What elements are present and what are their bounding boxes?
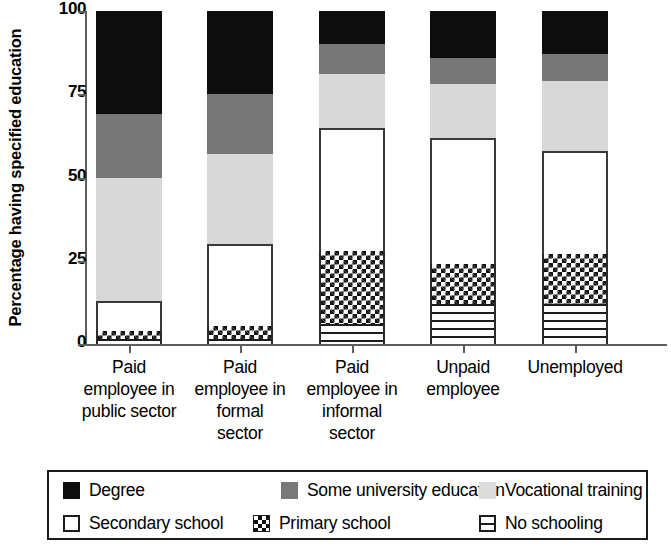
bar-segment-degree[interactable] bbox=[319, 11, 385, 44]
legend-swatch-icon bbox=[63, 482, 80, 499]
bar-segment-someuni[interactable] bbox=[430, 58, 496, 85]
legend-item-vocational-training[interactable]: Vocational training bbox=[479, 473, 642, 507]
x-category-label-1: Paidemployee inpublic sector bbox=[65, 356, 193, 422]
x-tick-mark bbox=[129, 346, 131, 353]
bar-segment-noschool[interactable] bbox=[430, 304, 496, 344]
x-tick-mark bbox=[240, 346, 242, 353]
x-category-label-line: employee in bbox=[288, 378, 416, 400]
bar-segment-vocational[interactable] bbox=[319, 74, 385, 127]
bar-segment-degree[interactable] bbox=[542, 11, 608, 54]
x-category-label-line: sector bbox=[176, 422, 304, 444]
legend-label: Degree bbox=[89, 480, 145, 501]
x-category-label-line: informal bbox=[288, 400, 416, 422]
x-axis-category-labels: Paidemployee inpublic sectorPaidemployee… bbox=[0, 356, 671, 461]
x-category-label-line: formal bbox=[176, 400, 304, 422]
x-category-label-line: Paid bbox=[176, 356, 304, 378]
legend-label: Vocational training bbox=[505, 480, 642, 501]
legend-swatch-icon bbox=[253, 515, 270, 532]
bar-segment-noschool[interactable] bbox=[542, 304, 608, 344]
x-category-label-line: Paid bbox=[65, 356, 193, 378]
bar-segment-secondary[interactable] bbox=[542, 151, 608, 254]
legend-row-2: Secondary schoolPrimary schoolNo schooli… bbox=[49, 506, 646, 540]
bar-segment-noschool[interactable] bbox=[207, 339, 273, 344]
bar-segment-primary[interactable] bbox=[207, 326, 273, 339]
bar-segment-secondary[interactable] bbox=[207, 244, 273, 326]
legend-item-no-schooling[interactable]: No schooling bbox=[479, 506, 603, 540]
x-category-label-3: Paidemployee ininformalsector bbox=[288, 356, 416, 444]
legend-item-primary-school[interactable]: Primary school bbox=[253, 506, 391, 540]
bar-series-group bbox=[0, 0, 671, 345]
legend-label: No schooling bbox=[505, 513, 603, 534]
x-tick-mark bbox=[463, 346, 465, 353]
bar-segment-secondary[interactable] bbox=[319, 128, 385, 251]
x-category-label-5: Unemployed bbox=[511, 356, 639, 378]
bar-2[interactable] bbox=[207, 11, 273, 344]
legend-label: Secondary school bbox=[89, 513, 223, 534]
x-category-label-2: Paidemployee informalsector bbox=[176, 356, 304, 444]
bar-segment-primary[interactable] bbox=[430, 264, 496, 304]
bar-segment-vocational[interactable] bbox=[207, 154, 273, 244]
plot-area: Percentage having specified education 02… bbox=[0, 0, 671, 355]
bar-segment-vocational[interactable] bbox=[430, 84, 496, 137]
bar-segment-vocational[interactable] bbox=[542, 81, 608, 151]
bar-segment-noschool[interactable] bbox=[96, 339, 162, 344]
bar-segment-primary[interactable] bbox=[542, 254, 608, 304]
legend-swatch-icon bbox=[479, 482, 496, 499]
bar-segment-someuni[interactable] bbox=[542, 54, 608, 81]
legend-item-some-university-education[interactable]: Some university education bbox=[281, 473, 505, 507]
legend: DegreeSome university educationVocationa… bbox=[47, 470, 648, 540]
bar-segment-someuni[interactable] bbox=[319, 44, 385, 74]
bar-1[interactable] bbox=[96, 11, 162, 344]
bar-5[interactable] bbox=[542, 11, 608, 344]
legend-item-secondary-school[interactable]: Secondary school bbox=[63, 506, 223, 540]
legend-row-1: DegreeSome university educationVocationa… bbox=[49, 473, 646, 507]
bar-segment-someuni[interactable] bbox=[96, 114, 162, 177]
legend-swatch-icon bbox=[479, 515, 496, 532]
bar-segment-someuni[interactable] bbox=[207, 94, 273, 154]
x-category-label-line: public sector bbox=[65, 400, 193, 422]
x-category-label-line: employee in bbox=[176, 378, 304, 400]
bar-4[interactable] bbox=[430, 11, 496, 344]
bar-3[interactable] bbox=[319, 11, 385, 344]
bar-segment-vocational[interactable] bbox=[96, 178, 162, 301]
bar-segment-primary[interactable] bbox=[319, 251, 385, 324]
bar-segment-primary[interactable] bbox=[96, 331, 162, 339]
bar-segment-degree[interactable] bbox=[430, 11, 496, 58]
x-category-label-line: employee bbox=[399, 378, 527, 400]
x-category-label-line: sector bbox=[288, 422, 416, 444]
legend-swatch-icon bbox=[63, 515, 80, 532]
x-category-label-line: Paid bbox=[288, 356, 416, 378]
x-category-label-4: Unpaidemployee bbox=[399, 356, 527, 400]
chart-figure: Percentage having specified education 02… bbox=[0, 0, 671, 546]
legend-label: Some university education bbox=[307, 480, 505, 501]
legend-swatch-icon bbox=[281, 482, 298, 499]
legend-item-degree[interactable]: Degree bbox=[63, 473, 145, 507]
x-tick-mark bbox=[352, 346, 354, 353]
x-category-label-line: Unpaid bbox=[399, 356, 527, 378]
bar-segment-degree[interactable] bbox=[207, 11, 273, 94]
bar-segment-degree[interactable] bbox=[96, 11, 162, 114]
bar-segment-secondary[interactable] bbox=[96, 301, 162, 331]
legend-label: Primary school bbox=[279, 513, 391, 534]
x-category-label-line: Unemployed bbox=[511, 356, 639, 378]
bar-segment-noschool[interactable] bbox=[319, 324, 385, 344]
bar-segment-secondary[interactable] bbox=[430, 138, 496, 265]
x-category-label-line: employee in bbox=[65, 378, 193, 400]
x-tick-mark bbox=[575, 346, 577, 353]
